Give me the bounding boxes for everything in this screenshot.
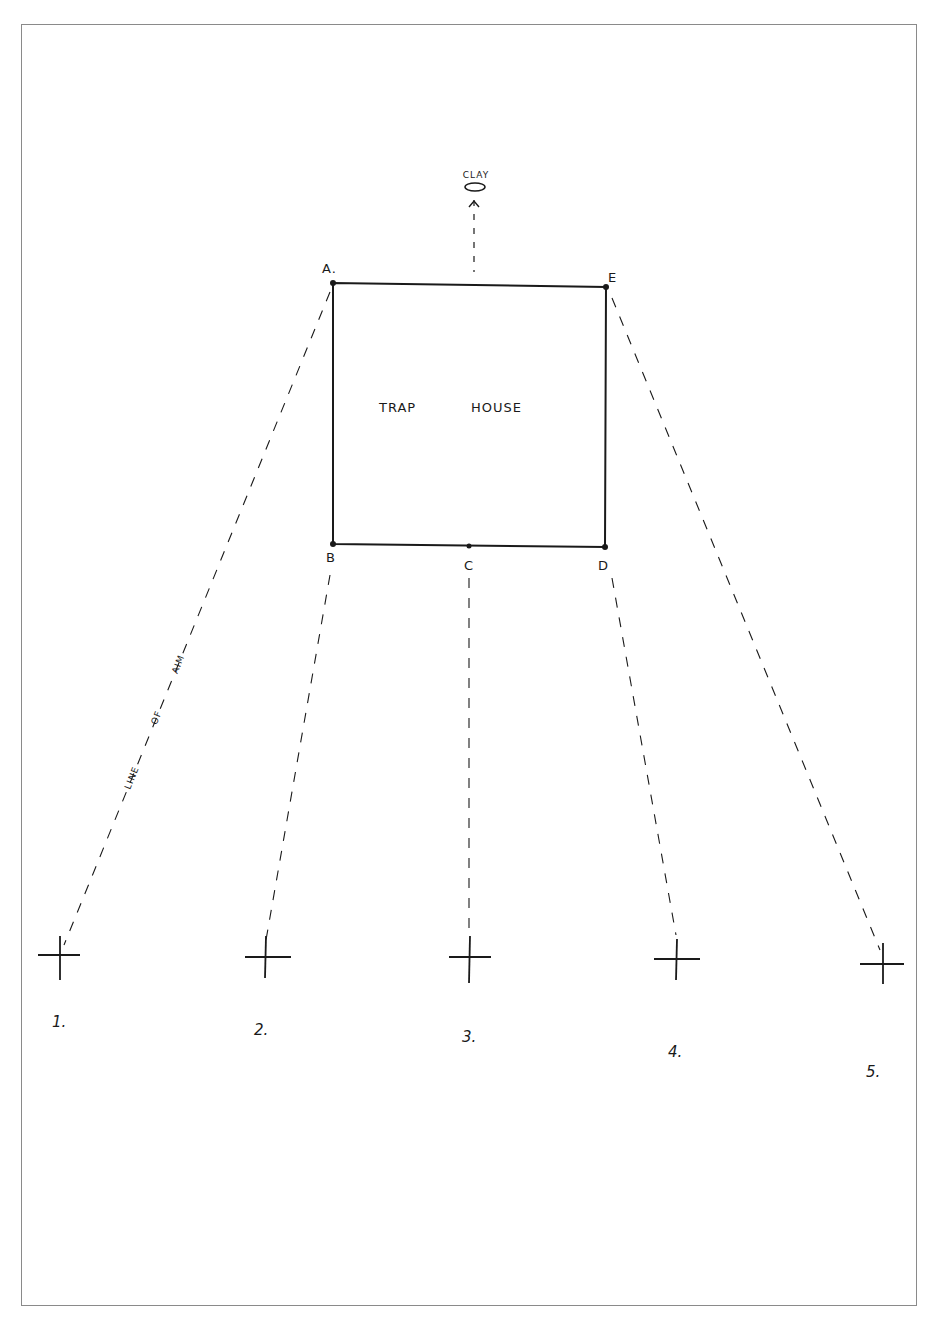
clay-label: CLAY xyxy=(463,170,489,180)
station-2-label: 2. xyxy=(254,1021,268,1039)
aim-line-station-1 xyxy=(64,292,330,945)
trap-house-diagram: CLAY TRAP HOUSE A. E B C D LINE OF AIM xyxy=(0,0,937,1325)
corner-d-label: D xyxy=(598,558,609,573)
trap-house-outline xyxy=(333,283,606,547)
aim-line-station-5 xyxy=(612,298,880,950)
house-label: HOUSE xyxy=(471,400,522,415)
aim-lines xyxy=(64,292,880,950)
corner-b-label: B xyxy=(326,550,336,565)
station-5: 5. xyxy=(860,943,904,1081)
station-3-label: 3. xyxy=(462,1028,476,1046)
corner-d-dot xyxy=(602,544,608,550)
line-of-aim-word-1: LINE xyxy=(123,765,141,791)
station-2: 2. xyxy=(245,936,291,1039)
corner-b-dot xyxy=(330,541,336,547)
point-c-dot xyxy=(467,544,472,549)
trap-house: TRAP HOUSE A. E B C D xyxy=(322,261,617,573)
station-1: 1. xyxy=(38,936,80,1031)
corner-e-label: E xyxy=(608,270,617,285)
station-3: 3. xyxy=(449,936,491,1046)
point-c-label: C xyxy=(464,558,474,573)
station-1-label: 1. xyxy=(52,1013,66,1031)
line-of-aim-label: LINE OF AIM xyxy=(123,653,187,791)
clay-target-icon xyxy=(465,183,485,191)
trap-label: TRAP xyxy=(378,400,416,415)
station-5-label: 5. xyxy=(866,1063,880,1081)
station-cross-icon xyxy=(265,936,266,978)
corner-a-dot xyxy=(330,280,336,286)
aim-line-station-4 xyxy=(612,578,676,935)
station-4: 4. xyxy=(654,939,700,1061)
aim-line-station-2 xyxy=(266,575,330,940)
station-cross-icon xyxy=(676,939,677,980)
station-4-label: 4. xyxy=(668,1043,682,1061)
line-of-aim-word-2: OF xyxy=(149,709,164,726)
line-of-aim-word-3: AIM xyxy=(170,653,187,675)
corner-a-label: A. xyxy=(322,261,337,276)
station-cross-icon xyxy=(469,936,470,983)
clay-group: CLAY xyxy=(463,170,489,272)
